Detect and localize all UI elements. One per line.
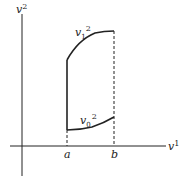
tick-label-a: a bbox=[64, 148, 71, 161]
region-diagram: v2 v1 a b v12 v02 bbox=[0, 0, 193, 181]
diagram-canvas: v2 v1 a b v12 v02 bbox=[0, 0, 193, 181]
upper-curve-label: v12 bbox=[75, 24, 91, 41]
tick-label-b: b bbox=[111, 148, 118, 161]
vertical-axis-label: v2 bbox=[16, 2, 27, 16]
horizontal-axis-label: v1 bbox=[168, 139, 179, 153]
